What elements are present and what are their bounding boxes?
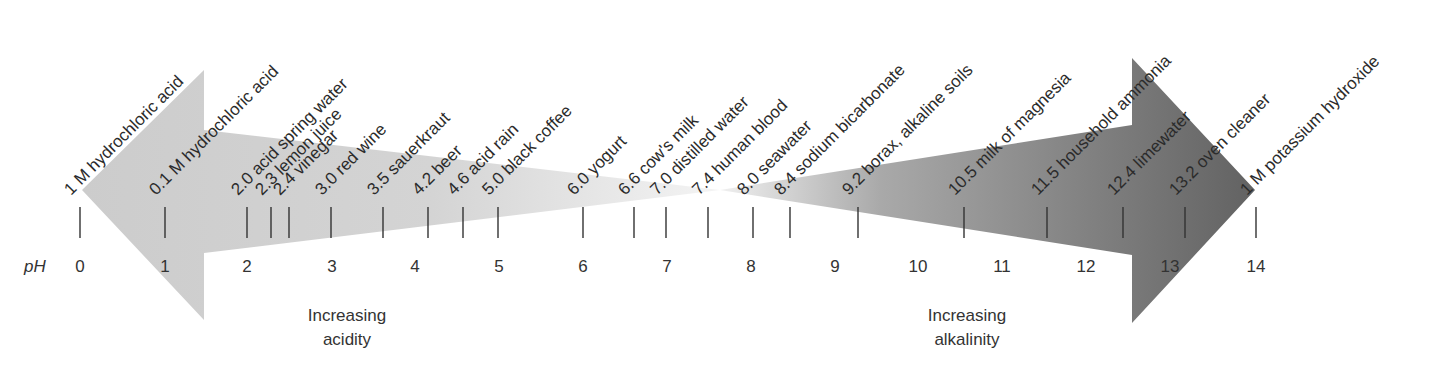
- ph-number: 0: [75, 257, 84, 277]
- ph-number: 13: [1161, 257, 1180, 277]
- ph-number: 10: [909, 257, 928, 277]
- ph-axis-label: pH: [24, 257, 46, 277]
- caption-acidity-line1: Increasing: [308, 304, 386, 328]
- ph-number: 2: [242, 257, 251, 277]
- ph-number: 8: [746, 257, 755, 277]
- ph-number: 4: [410, 257, 419, 277]
- ph-number: 1: [160, 257, 169, 277]
- ph-number: 6: [578, 257, 587, 277]
- ph-number: 11: [993, 257, 1011, 277]
- caption-alkalinity-line1: Increasing: [928, 304, 1006, 328]
- ph-number: 5: [494, 257, 503, 277]
- ph-number: 7: [662, 257, 671, 277]
- caption-increasing-alkalinity: Increasing alkalinity: [928, 304, 1006, 352]
- ph-number: 9: [830, 257, 839, 277]
- ph-number: 14: [1247, 257, 1266, 277]
- caption-increasing-acidity: Increasing acidity: [308, 304, 386, 352]
- ph-scale-diagram: [0, 0, 1440, 365]
- ph-number: 12: [1077, 257, 1096, 277]
- caption-acidity-line2: acidity: [308, 328, 386, 352]
- caption-alkalinity-line2: alkalinity: [928, 328, 1006, 352]
- ph-number: 3: [327, 257, 336, 277]
